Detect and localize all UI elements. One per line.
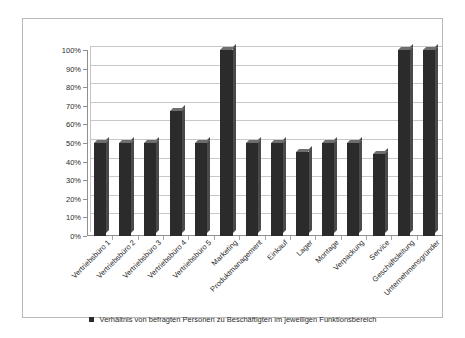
- bar: [144, 143, 156, 236]
- bar-side-face: [258, 137, 261, 233]
- bar: [246, 143, 258, 236]
- bar-side-face: [435, 44, 438, 233]
- bar-column: [144, 50, 156, 236]
- bar-column: [94, 50, 106, 236]
- x-axis-tick: [290, 236, 291, 240]
- x-axis-tick: [417, 236, 418, 240]
- bar: [170, 111, 182, 236]
- x-axis-tick: [442, 236, 443, 240]
- bar: [119, 143, 131, 236]
- plot-area: 100%90%80%70%60%50%40%30%20%10%0%: [87, 50, 442, 236]
- bar-column: [220, 50, 232, 236]
- bar-side-face: [233, 44, 236, 233]
- bar-side-face: [283, 137, 286, 233]
- chart-figure-frame: 100%90%80%70%60%50%40%30%20%10%0% Vertri…: [22, 18, 443, 318]
- x-axis-category-label: Service: [367, 238, 391, 262]
- x-axis-tick: [112, 236, 113, 240]
- y-axis-tick-label: 100%: [62, 46, 81, 55]
- y-axis-tick-label: 80%: [66, 83, 81, 92]
- bar: [220, 50, 232, 236]
- bar: [94, 143, 106, 236]
- x-axis-tick: [163, 236, 164, 240]
- bar-side-face: [156, 137, 159, 233]
- bar: [398, 50, 410, 236]
- chart-legend: Verhältnis von befragten Personen zu Bes…: [23, 315, 442, 324]
- x-axis-tick: [265, 236, 266, 240]
- chart-screenshot: 100%90%80%70%60%50%40%30%20%10%0% Vertri…: [0, 0, 465, 338]
- y-axis-tick-label: 90%: [66, 64, 81, 73]
- y-axis-tick-label: 50%: [66, 139, 81, 148]
- x-axis-tick: [188, 236, 189, 240]
- x-axis-tick: [366, 236, 367, 240]
- bar-side-face: [385, 148, 388, 233]
- bar-column: [398, 50, 410, 236]
- y-axis-tick-label: 0%: [70, 232, 81, 241]
- bar-side-face: [182, 105, 185, 233]
- bar-column: [195, 50, 207, 236]
- bar-top-face: [94, 140, 109, 143]
- x-axis-tick: [138, 236, 139, 240]
- x-axis-category-label: Einkauf: [265, 238, 289, 262]
- bar-side-face: [207, 137, 210, 233]
- bar-column: [246, 50, 258, 236]
- bar-column: [271, 50, 283, 236]
- bar-series: [87, 50, 442, 236]
- bar: [322, 143, 334, 236]
- bar-column: [170, 50, 182, 236]
- bar-column: [322, 50, 334, 236]
- bar-side-face: [106, 137, 109, 233]
- bar-side-face: [359, 137, 362, 233]
- bar-column: [347, 50, 359, 236]
- y-axis-tick-label: 40%: [66, 157, 81, 166]
- bar: [373, 154, 385, 236]
- bar-column: [423, 50, 435, 236]
- bar-column: [119, 50, 131, 236]
- bar: [296, 152, 308, 236]
- bar-side-face: [131, 137, 134, 233]
- y-axis-tick-label: 60%: [66, 120, 81, 129]
- bar: [347, 143, 359, 236]
- y-axis-tick-label: 10%: [66, 213, 81, 222]
- square-marker-icon: [89, 317, 94, 322]
- bar: [195, 143, 207, 236]
- legend-label: Verhältnis von befragten Personen zu Bes…: [100, 315, 377, 324]
- bar-side-face: [410, 44, 413, 233]
- gridline: [90, 46, 442, 47]
- y-axis-tick-label: 70%: [66, 101, 81, 110]
- bar-side-face: [309, 146, 312, 233]
- x-axis-tick: [391, 236, 392, 240]
- x-axis-tick: [239, 236, 240, 240]
- bar-side-face: [334, 137, 337, 233]
- y-axis-tick: [83, 236, 87, 237]
- y-axis-tick-label: 30%: [66, 176, 81, 185]
- bar: [271, 143, 283, 236]
- bar: [423, 50, 435, 236]
- bar-top-face: [373, 151, 388, 154]
- x-axis-tick: [341, 236, 342, 240]
- y-axis-tick-label: 20%: [66, 194, 81, 203]
- bar-column: [373, 50, 385, 236]
- x-axis-category-label: Lager: [295, 238, 315, 258]
- x-axis-tick: [214, 236, 215, 240]
- x-axis-tick: [315, 236, 316, 240]
- bar-column: [296, 50, 308, 236]
